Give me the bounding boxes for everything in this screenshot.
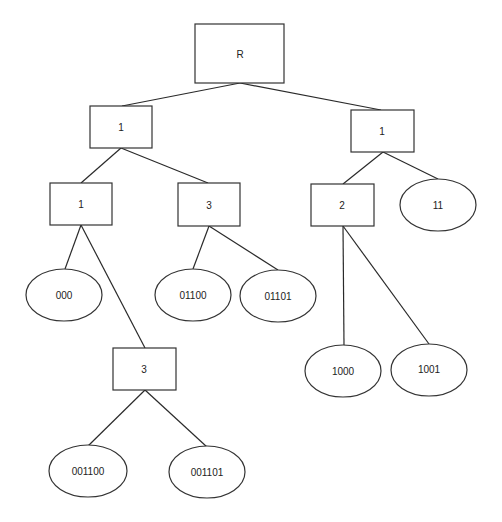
node-label: 11 [433, 200, 444, 211]
node-leaf-1001: 1001 [391, 344, 467, 396]
node-leaf-000: 000 [26, 269, 102, 321]
node-l1-l: 1 [50, 183, 112, 225]
edge-r1-11 [383, 152, 438, 179]
node-leaf-01100: 01100 [155, 269, 231, 321]
node-l1: 1 [90, 106, 152, 148]
node-leaf-1000: 1000 [305, 345, 381, 397]
node-deep3: 3 [113, 348, 176, 390]
edge-l1r-01100 [193, 226, 209, 269]
node-label: 1000 [332, 366, 355, 377]
node-label: 2 [339, 200, 345, 211]
node-label: 3 [206, 200, 212, 211]
tree-diagram: R 1 1 1 3 2 11 000 01100 01101 1000 [0, 0, 502, 522]
edge-root-l1 [122, 83, 240, 106]
node-label: 01100 [179, 290, 207, 301]
node-label: R [236, 49, 243, 60]
node-leaf-01101: 01101 [240, 270, 316, 322]
edge-root-r1 [240, 83, 381, 110]
node-label: 1 [118, 122, 124, 133]
edge-l1-l1r [121, 148, 208, 183]
node-r1-l: 2 [311, 184, 374, 226]
edge-l1r-01101 [209, 226, 278, 270]
edge-r1-r1l [343, 152, 383, 184]
edge-deep3-001101 [145, 390, 207, 447]
node-label: 001100 [72, 466, 105, 477]
edge-r1l-1000 [343, 226, 344, 346]
edge-r1l-1001 [343, 226, 429, 344]
node-label: 1 [379, 126, 385, 137]
node-leaf-001101: 001101 [169, 446, 245, 498]
node-root: R [195, 24, 284, 83]
node-label: 1001 [418, 364, 441, 375]
node-label: 001101 [191, 467, 224, 478]
node-label: 000 [56, 290, 73, 301]
node-r1-r: 11 [400, 179, 476, 231]
node-label: 01101 [264, 291, 292, 302]
edge-l1-l1l [81, 148, 121, 183]
node-l1-r: 3 [178, 183, 240, 226]
edge-l1l-000 [65, 225, 81, 269]
node-label: 3 [141, 364, 147, 375]
edge-deep3-001100 [88, 390, 145, 446]
node-label: 1 [78, 199, 84, 210]
node-r1: 1 [351, 110, 414, 152]
node-leaf-001100: 001100 [49, 445, 127, 497]
